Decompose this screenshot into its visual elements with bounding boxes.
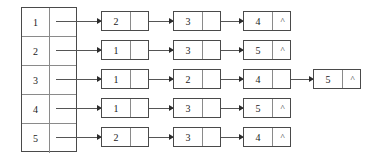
arrow-node-to-node [149, 108, 173, 109]
node-value: 3 [174, 99, 203, 117]
index-row: 3 [22, 66, 76, 95]
arrow-head-to-node [56, 79, 101, 80]
arrow-head-to-node [56, 50, 101, 51]
node-next-pointer [203, 99, 222, 117]
node-value: 4 [244, 12, 273, 30]
index-pointer-cell [50, 124, 78, 153]
node-value: 1 [102, 41, 131, 59]
arrow-head-to-node [56, 137, 101, 138]
list-node: 5 ^ [243, 40, 291, 60]
list-node: 1 [101, 40, 149, 60]
list-node: 2 [173, 69, 221, 89]
arrow-node-to-node [149, 137, 173, 138]
node-next-pointer [203, 70, 222, 88]
node-value: 3 [174, 128, 203, 146]
node-null-terminator: ^ [273, 128, 292, 146]
list-node: 3 [173, 11, 221, 31]
list-node: 5 ^ [313, 69, 361, 89]
index-pointer-cell [50, 66, 78, 94]
arrow-node-to-node [221, 137, 243, 138]
list-node: 2 [101, 127, 149, 147]
node-next-pointer [203, 41, 222, 59]
arrow-node-to-node [221, 50, 243, 51]
node-null-terminator: ^ [273, 99, 292, 117]
adjacency-list-diagram: 1 2 3 4 5 2 3 4 ^ 1 [0, 0, 371, 159]
node-value: 5 [244, 99, 273, 117]
list-node: 5 ^ [243, 98, 291, 118]
index-row: 5 [22, 124, 76, 153]
node-value: 3 [174, 41, 203, 59]
node-value: 5 [314, 70, 343, 88]
node-value: 1 [102, 99, 131, 117]
index-pointer-cell [50, 37, 78, 65]
arrow-node-to-node [221, 21, 243, 22]
node-null-terminator: ^ [273, 12, 292, 30]
index-pointer-cell [50, 95, 78, 123]
node-next-pointer [131, 12, 150, 30]
index-key-cell: 3 [22, 66, 50, 94]
list-node: 3 [173, 40, 221, 60]
node-value: 4 [244, 128, 273, 146]
list-node: 1 [101, 98, 149, 118]
node-next-pointer [131, 70, 150, 88]
node-value: 4 [244, 70, 273, 88]
arrow-node-to-node [149, 79, 173, 80]
node-value: 1 [102, 70, 131, 88]
list-node: 2 [101, 11, 149, 31]
node-next-pointer [273, 70, 292, 88]
arrow-node-to-node [221, 79, 243, 80]
node-value: 2 [102, 128, 131, 146]
index-row: 2 [22, 37, 76, 66]
index-key-cell: 4 [22, 95, 50, 123]
list-node: 1 [101, 69, 149, 89]
node-value: 2 [174, 70, 203, 88]
list-node: 4 [243, 69, 291, 89]
node-null-terminator: ^ [343, 70, 362, 88]
index-key-cell: 2 [22, 37, 50, 65]
arrow-node-to-node [149, 21, 173, 22]
index-row: 4 [22, 95, 76, 124]
arrow-head-to-node [56, 21, 101, 22]
arrow-head-to-node [56, 108, 101, 109]
node-next-pointer [131, 128, 150, 146]
list-node: 3 [173, 98, 221, 118]
node-value: 3 [174, 12, 203, 30]
index-key-cell: 5 [22, 124, 50, 153]
node-next-pointer [131, 41, 150, 59]
arrow-node-to-node [291, 79, 313, 80]
arrow-node-to-node [149, 50, 173, 51]
list-node: 4 ^ [243, 127, 291, 147]
node-value: 2 [102, 12, 131, 30]
index-row: 1 [22, 8, 76, 37]
node-next-pointer [203, 12, 222, 30]
node-next-pointer [203, 128, 222, 146]
arrow-node-to-node [221, 108, 243, 109]
index-key-cell: 1 [22, 8, 50, 36]
list-node: 4 ^ [243, 11, 291, 31]
node-next-pointer [131, 99, 150, 117]
node-value: 5 [244, 41, 273, 59]
index-pointer-cell [50, 8, 78, 36]
list-node: 3 [173, 127, 221, 147]
node-null-terminator: ^ [273, 41, 292, 59]
